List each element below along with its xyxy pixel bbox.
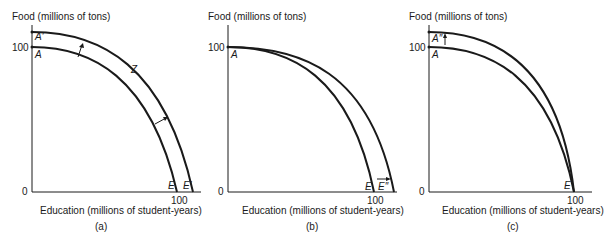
ppf-curve-a-double-prime-e bbox=[429, 32, 574, 192]
label-z: Z bbox=[131, 64, 137, 75]
y-tick-0: 0 bbox=[419, 186, 425, 197]
label-a: A bbox=[231, 49, 238, 60]
y-axis-label: Food (millions of tons) bbox=[409, 11, 507, 22]
x-axis-label: Education (millions of student-years) bbox=[442, 205, 604, 216]
label-a-double-prime: A″ bbox=[432, 33, 442, 44]
label-e: E bbox=[168, 180, 175, 191]
label-a: A bbox=[432, 49, 439, 60]
x-axis-label: Education (millions of student-years) bbox=[40, 205, 202, 216]
label-a-prime: A′ bbox=[35, 31, 44, 42]
panel-caption: (b) bbox=[306, 221, 318, 232]
y-tick-100: 100 bbox=[409, 42, 426, 53]
label-e-double-prime: E″ bbox=[378, 181, 388, 192]
y-tick-100: 100 bbox=[208, 42, 225, 53]
ppf-curve-ae bbox=[429, 47, 574, 192]
label-e-prime: E′ bbox=[183, 180, 192, 191]
label-e: E bbox=[365, 181, 372, 192]
panel-c: Food (millions of tons) 100 0 A″ A E 100… bbox=[400, 0, 600, 237]
y-axis-label: Food (millions of tons) bbox=[12, 11, 110, 22]
ppf-curve-a-prime-e-prime bbox=[32, 32, 193, 192]
y-tick-100: 100 bbox=[12, 42, 29, 53]
ppf-curve-ae bbox=[32, 47, 177, 192]
label-e: E bbox=[564, 180, 571, 191]
y-axis-label: Food (millions of tons) bbox=[208, 11, 306, 22]
y-tick-0: 0 bbox=[22, 186, 28, 197]
label-a: A bbox=[35, 49, 42, 60]
x-axis-label: Education (millions of student-years) bbox=[242, 205, 404, 216]
ppf-curve-ae bbox=[228, 47, 374, 192]
panel-caption: (a) bbox=[95, 221, 107, 232]
y-tick-0: 0 bbox=[218, 186, 224, 197]
panel-caption: (c) bbox=[507, 221, 519, 232]
panel-a: Food (millions of tons) 100 0 A′ A Z E E… bbox=[0, 0, 200, 237]
panel-b: Food (millions of tons) 100 0 A E E″ 100… bbox=[200, 0, 400, 237]
